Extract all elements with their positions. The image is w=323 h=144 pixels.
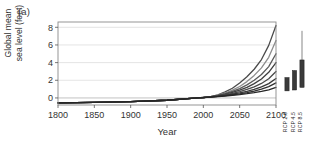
rcp-label-2: RCP 8.5	[297, 112, 303, 132]
sea-level-line-chart: 1800185019001950200020502100 02468 RCP 2…	[0, 0, 323, 144]
y-axis-ticks: 02468	[48, 23, 58, 104]
x-tick-label-2050: 2050	[230, 110, 250, 120]
y-axis-label-line2: sea level (feet)	[14, 5, 24, 61]
x-axis-label: Year	[58, 126, 276, 137]
x-tick-label-2000: 2000	[193, 110, 213, 120]
y-tick-label-4: 4	[48, 58, 53, 68]
rcp-box-1	[292, 71, 296, 90]
rcp-box-0	[285, 78, 289, 91]
x-tick-label-1800: 1800	[48, 110, 68, 120]
figure-panel-a: (a) Global meansea level (feet) Year 180…	[0, 0, 323, 144]
y-axis-label-line1: Global mean	[3, 9, 13, 58]
y-tick-label-6: 6	[48, 40, 53, 50]
rcp-label-0: RCP 2.6	[282, 112, 288, 132]
x-tick-label-1900: 1900	[121, 110, 141, 120]
x-tick-label-1950: 1950	[157, 110, 177, 120]
y-tick-label-0: 0	[48, 93, 53, 103]
y-tick-label-8: 8	[48, 23, 53, 33]
y-axis-label: Global meansea level (feet)	[3, 0, 25, 75]
x-tick-label-1850: 1850	[84, 110, 104, 120]
y-tick-label-2: 2	[48, 75, 53, 85]
rcp-range-boxes: RCP 2.6RCP 4.5RCP 8.5	[282, 31, 304, 132]
rcp-box-2	[300, 60, 304, 87]
rcp-label-1: RCP 4.5	[290, 112, 296, 132]
x-axis-ticks: 1800185019001950200020502100	[48, 105, 286, 120]
